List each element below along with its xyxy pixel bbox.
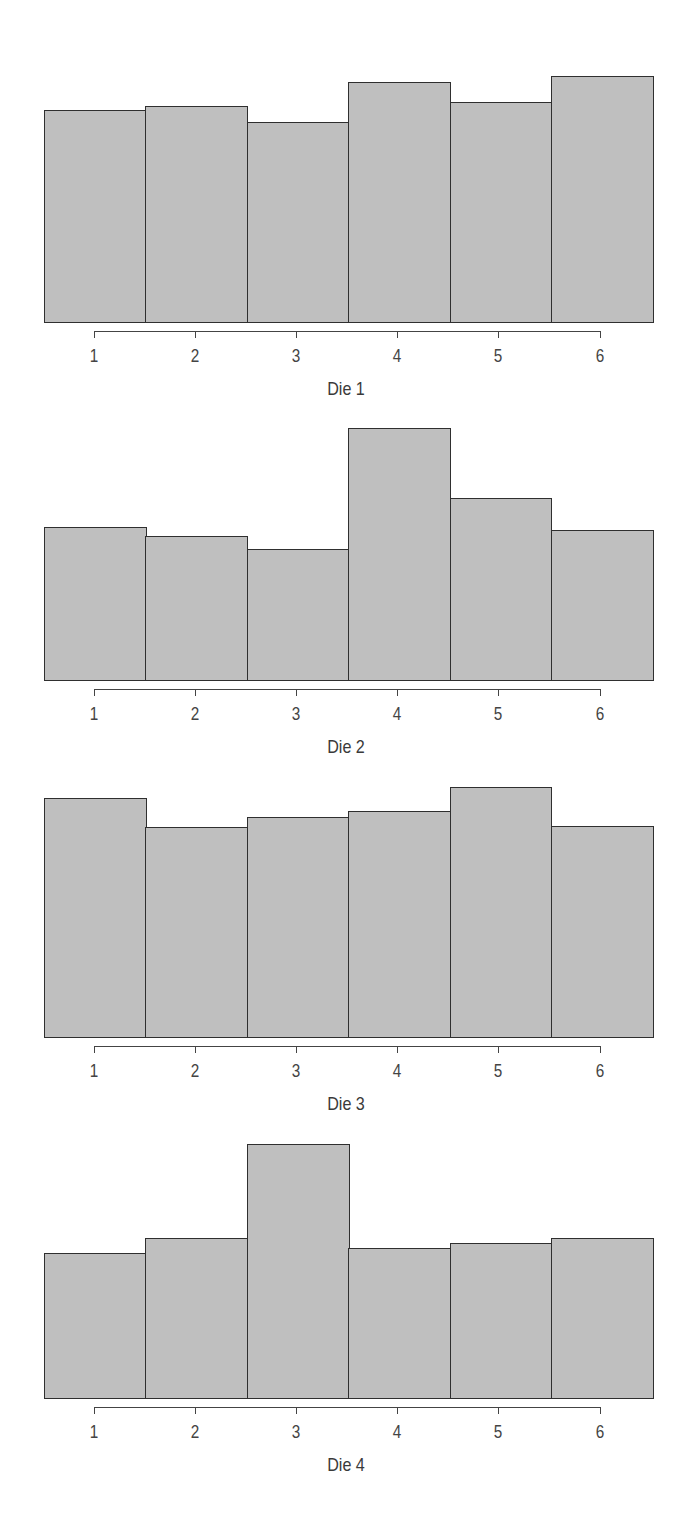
histogram-bar <box>145 827 248 1038</box>
x-tick-mark <box>600 331 601 338</box>
histogram-bar <box>44 1253 147 1399</box>
x-tick-mark <box>195 689 196 696</box>
x-tick-label: 1 <box>81 1423 107 1441</box>
x-tick-mark <box>397 1046 398 1053</box>
x-tick-mark <box>498 331 499 338</box>
histogram-bar <box>551 826 654 1038</box>
histogram-bar <box>348 82 451 323</box>
x-tick-label: 3 <box>283 1423 309 1441</box>
histogram-bar <box>551 1238 654 1399</box>
x-axis-line <box>94 689 600 690</box>
histogram-bar <box>247 549 350 681</box>
x-tick-mark <box>94 1046 95 1053</box>
histogram-bar <box>44 110 147 323</box>
x-tick-mark <box>195 1407 196 1414</box>
x-tick-mark <box>94 331 95 338</box>
x-tick-label: 4 <box>384 347 410 365</box>
histogram-bar <box>348 811 451 1038</box>
histogram-bar <box>450 787 553 1038</box>
x-tick-mark <box>195 331 196 338</box>
x-tick-label: 1 <box>81 705 107 723</box>
x-tick-label: 6 <box>587 347 613 365</box>
x-tick-label: 2 <box>182 347 208 365</box>
x-tick-mark <box>296 331 297 338</box>
histogram-bar <box>247 122 350 323</box>
x-tick-label: 5 <box>486 1423 512 1441</box>
x-tick-label: 6 <box>587 1062 613 1080</box>
x-tick-mark <box>498 689 499 696</box>
x-tick-mark <box>94 1407 95 1414</box>
x-tick-label: 6 <box>587 705 613 723</box>
x-tick-mark <box>195 1046 196 1053</box>
x-axis-title: Die 1 <box>295 379 397 399</box>
x-tick-label: 3 <box>283 705 309 723</box>
histogram-bar <box>450 102 553 323</box>
x-axis-title: Die 4 <box>295 1455 397 1475</box>
x-tick-label: 2 <box>182 1423 208 1441</box>
x-axis-title: Die 3 <box>295 1094 397 1114</box>
x-tick-mark <box>397 331 398 338</box>
x-axis-line <box>94 331 600 332</box>
x-tick-mark <box>94 689 95 696</box>
x-axis-title: Die 2 <box>295 737 397 757</box>
histogram-bar <box>247 1144 350 1399</box>
x-tick-label: 6 <box>587 1423 613 1441</box>
histogram-bar <box>145 1238 248 1399</box>
x-axis-line <box>94 1046 600 1047</box>
histogram-bar <box>450 1243 553 1399</box>
histogram-bar <box>44 527 147 681</box>
histogram-bar <box>145 106 248 323</box>
x-tick-mark <box>600 689 601 696</box>
x-tick-mark <box>600 1046 601 1053</box>
x-tick-label: 1 <box>81 1062 107 1080</box>
x-tick-mark <box>296 1407 297 1414</box>
histogram-bar <box>450 498 553 681</box>
x-tick-label: 4 <box>384 1062 410 1080</box>
x-tick-label: 1 <box>81 347 107 365</box>
x-tick-mark <box>600 1407 601 1414</box>
x-axis-line <box>94 1407 600 1408</box>
x-tick-label: 2 <box>182 1062 208 1080</box>
x-tick-mark <box>296 1046 297 1053</box>
histogram-bar <box>145 536 248 681</box>
histogram-bar <box>551 76 654 323</box>
x-tick-label: 2 <box>182 705 208 723</box>
x-tick-mark <box>397 1407 398 1414</box>
histogram-bar <box>348 1248 451 1399</box>
histogram-bar <box>551 530 654 681</box>
x-tick-mark <box>498 1407 499 1414</box>
x-tick-mark <box>397 689 398 696</box>
x-tick-label: 5 <box>486 1062 512 1080</box>
x-tick-label: 4 <box>384 705 410 723</box>
histogram-bar <box>247 817 350 1038</box>
x-tick-label: 5 <box>486 705 512 723</box>
x-tick-label: 4 <box>384 1423 410 1441</box>
x-tick-mark <box>296 689 297 696</box>
histogram-bar <box>348 428 451 681</box>
x-tick-label: 3 <box>283 347 309 365</box>
x-tick-mark <box>498 1046 499 1053</box>
x-tick-label: 3 <box>283 1062 309 1080</box>
histogram-bar <box>44 798 147 1038</box>
x-tick-label: 5 <box>486 347 512 365</box>
